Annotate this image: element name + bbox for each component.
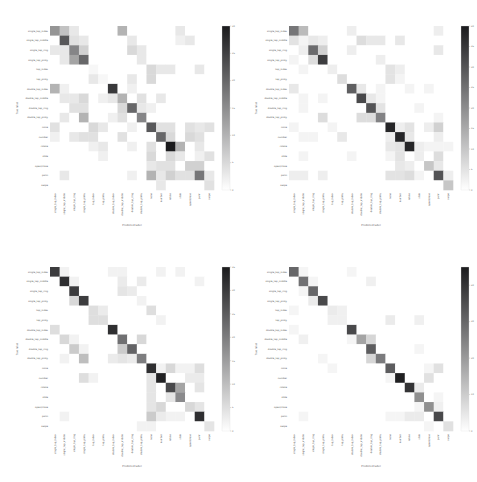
heatmap-cell xyxy=(347,277,357,287)
heatmap-cell xyxy=(347,363,357,373)
heatmap-cell xyxy=(118,151,128,161)
heatmap-cell xyxy=(395,344,405,354)
heatmap-cell xyxy=(366,151,376,161)
heatmap-cell xyxy=(50,113,60,123)
heatmap-cell xyxy=(405,392,415,402)
heatmap-cell xyxy=(50,392,60,402)
heatmap-cell xyxy=(79,55,89,65)
heatmap-cell xyxy=(414,151,424,161)
heatmap-cell xyxy=(385,306,395,316)
heatmap-cell xyxy=(79,65,89,75)
y-tick-label: tap_pinky xyxy=(36,78,48,81)
heatmap-cell xyxy=(60,36,70,46)
heatmap-cell xyxy=(146,335,156,345)
heatmap-cell xyxy=(98,180,108,190)
heatmap-cell xyxy=(366,306,376,316)
heatmap-cell xyxy=(308,267,318,277)
y-axis-label: True label xyxy=(16,342,19,355)
colorbar-tick-label: 35 xyxy=(471,45,474,48)
heatmap-cell xyxy=(98,363,108,373)
heatmap-cell xyxy=(376,363,386,373)
heatmap-cell xyxy=(118,180,128,190)
heatmap-cell xyxy=(127,94,137,104)
heatmap-cell xyxy=(405,286,415,296)
heatmap-cell xyxy=(175,392,185,402)
heatmap-cell xyxy=(328,45,338,55)
heatmap-cell xyxy=(108,267,118,277)
heatmap-cell xyxy=(127,373,137,383)
heatmap-cell xyxy=(347,171,357,181)
heatmap-cell xyxy=(60,113,70,123)
y-tick-label: open/close xyxy=(35,165,48,168)
heatmap-cell xyxy=(69,373,79,383)
heatmap-cell xyxy=(395,132,405,142)
x-tick-label: single_tap_ring xyxy=(73,434,76,453)
y-tick-label: none xyxy=(281,126,287,129)
heatmap-cell xyxy=(89,277,99,287)
heatmap-cell xyxy=(108,161,118,171)
y-tick-label: number xyxy=(39,136,48,139)
heatmap-cell xyxy=(195,132,205,142)
x-tick-label: palm xyxy=(198,192,201,199)
heatmap-cell xyxy=(98,315,108,325)
heatmap-cell xyxy=(434,354,444,364)
heatmap-cell xyxy=(424,335,434,345)
heatmap-cell xyxy=(347,421,357,431)
heatmap-cell xyxy=(405,84,415,94)
heatmap-cell xyxy=(137,421,147,431)
heatmap-cell xyxy=(318,277,328,287)
heatmap-cell xyxy=(405,171,415,181)
heatmap-cell xyxy=(175,161,185,171)
heatmap-cell xyxy=(376,65,386,75)
heatmap-cell xyxy=(424,151,434,161)
heatmap-cell xyxy=(337,383,347,393)
heatmap-cell xyxy=(175,373,185,383)
heatmap-cell xyxy=(328,354,338,364)
heatmap-cell xyxy=(328,161,338,171)
colorbar xyxy=(461,26,469,190)
heatmap-cell xyxy=(79,335,89,345)
heatmap-cell xyxy=(424,421,434,431)
heatmap-cell xyxy=(195,45,205,55)
heatmap-cell xyxy=(289,142,299,152)
heatmap-cell xyxy=(156,65,166,75)
x-tick-label: rotate xyxy=(408,433,411,441)
heatmap-cell xyxy=(146,55,156,65)
heatmap-cell xyxy=(98,267,108,277)
heatmap-cell xyxy=(347,315,357,325)
heatmap-cell xyxy=(376,103,386,113)
heatmap-cell xyxy=(175,84,185,94)
heatmap-cell xyxy=(414,296,424,306)
heatmap-cell xyxy=(424,26,434,36)
heatmap-cell xyxy=(185,306,195,316)
heatmap-cell xyxy=(137,325,147,335)
heatmap-cell xyxy=(127,45,137,55)
heatmap-cell xyxy=(405,277,415,287)
heatmap-cell xyxy=(405,267,415,277)
heatmap-cell xyxy=(347,151,357,161)
heatmap-cell xyxy=(299,65,309,75)
y-tick-label: single_tap_ring xyxy=(269,290,288,293)
heatmap-cell xyxy=(385,151,395,161)
heatmap-cell xyxy=(69,74,79,84)
y-tick-label: tap_index xyxy=(36,68,48,71)
heatmap-cell xyxy=(443,267,453,277)
heatmap-cell xyxy=(376,325,386,335)
heatmap-cell xyxy=(50,267,60,277)
y-tick-label: double_tap_pinky xyxy=(27,357,48,360)
heatmap-cell xyxy=(328,392,338,402)
heatmap-cell xyxy=(328,335,338,345)
heatmap-cell xyxy=(108,132,118,142)
heatmap-cell xyxy=(289,55,299,65)
heatmap-cell xyxy=(50,132,60,142)
heatmap-cell xyxy=(395,412,405,422)
heatmap-cell xyxy=(366,161,376,171)
heatmap-cell xyxy=(146,94,156,104)
heatmap-cell xyxy=(385,412,395,422)
heatmap-cell xyxy=(318,286,328,296)
heatmap-cell xyxy=(405,421,415,431)
heatmap-cell xyxy=(166,354,176,364)
heatmap-cell xyxy=(424,325,434,335)
heatmap-cell xyxy=(127,180,137,190)
y-tick-label: swipe xyxy=(280,184,287,187)
